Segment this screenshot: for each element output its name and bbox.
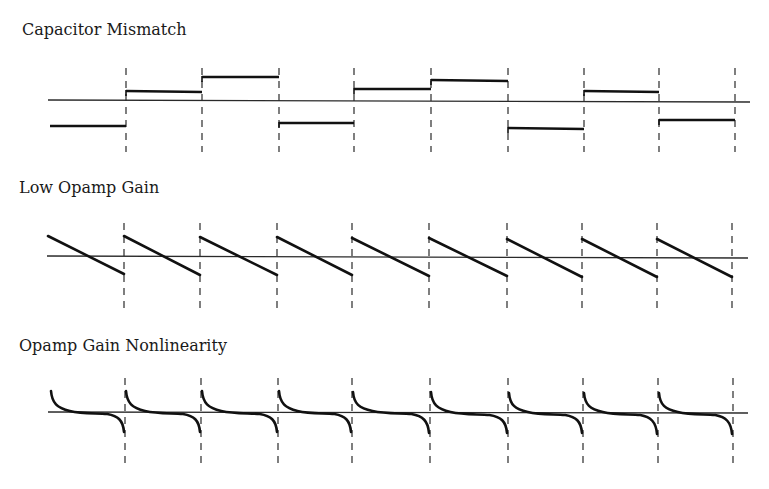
sawtooth-ramp-segment bbox=[124, 236, 200, 275]
error-step-segment bbox=[126, 91, 202, 92]
low-opamp-gain-waveform bbox=[47, 223, 748, 308]
sawtooth-ramp-segment bbox=[277, 237, 352, 275]
error-step-segment bbox=[584, 91, 659, 92]
nonlinear-settling-curve bbox=[202, 391, 277, 432]
zero-axis bbox=[48, 100, 750, 102]
zero-axis bbox=[47, 256, 748, 258]
sawtooth-ramp-segment bbox=[48, 236, 124, 274]
waveform-diagram bbox=[0, 0, 769, 489]
error-step-segment bbox=[431, 80, 508, 81]
nonlinear-settling-curve bbox=[279, 391, 351, 432]
opamp-gain-nonlinearity-waveform bbox=[48, 378, 748, 464]
error-step-segment bbox=[508, 128, 584, 129]
capacitor-mismatch-waveform bbox=[48, 68, 750, 152]
